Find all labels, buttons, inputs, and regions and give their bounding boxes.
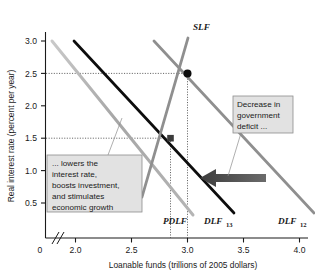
y-tick-label-0-5: 0.5 [25,198,37,208]
callout-right-line-2: government [237,111,280,120]
y-tick-label-1-0: 1.0 [25,166,37,176]
new-equilibrium-point [167,135,174,142]
y-axis-ticks: 3.0 2.5 2.0 1.5 1.0 0.5 [25,36,45,208]
callout-left-line-4: and stimulates [52,192,104,201]
callout-right-line-3: deficit ... [237,122,267,131]
x-axis-title: Loanable funds (trillions of 2005 dollar… [109,260,258,270]
y-tick-label-3-0: 3.0 [25,36,37,46]
y-tick-label-1-5: 1.5 [25,133,37,143]
curve-label-slf: SLF [193,22,210,32]
curve-label-dlf12-base: DLF [277,216,296,226]
callout-right-leader [228,133,241,176]
callout-left-leader [108,118,122,155]
y-axis-title: Real interest rate (percent per year) [6,69,16,202]
x-tick-label-2-0: 2.0 [70,245,82,255]
x-axis-ticks: 2.0 2.5 3.0 3.5 4.0 0 [38,238,306,255]
callout-left-line-2: interest rate, [52,170,97,179]
curve-label-dlf12-subscript: 12 [300,221,307,228]
y-tick-label-2-5: 2.5 [25,69,37,79]
initial-equilibrium-point [184,69,192,77]
curve-label-pdlf: PDLF [163,216,187,226]
curve-slf [142,38,188,197]
curve-label-dlf12: DLF 12 [277,216,307,228]
curve-label-dlf13-subscript: 13 [226,221,233,228]
x-tick-label-4-0: 4.0 [294,245,306,255]
callout-left-line-1: ... lowers the [52,159,98,168]
callout-left-line-3: boosts investment, [52,181,119,190]
loanable-funds-chart: 3.0 2.5 2.0 1.5 1.0 0.5 2.0 2.5 3.0 3.5 … [0,0,315,278]
y-tick-label-2-0: 2.0 [25,101,37,111]
shift-left-arrow [200,169,266,187]
origin-label: 0 [38,245,43,255]
decrease-deficit-callout: Decrease in government deficit ... [228,96,293,176]
x-tick-label-3-5: 3.5 [238,245,250,255]
x-tick-label-3-0: 3.0 [182,245,194,255]
curve-label-dlf13: DLF 13 [203,216,233,228]
callout-right-line-1: Decrease in [237,100,280,109]
callout-left-line-5: economic growth [52,203,113,212]
curve-label-dlf13-base: DLF [203,216,222,226]
x-tick-label-2-5: 2.5 [126,245,138,255]
